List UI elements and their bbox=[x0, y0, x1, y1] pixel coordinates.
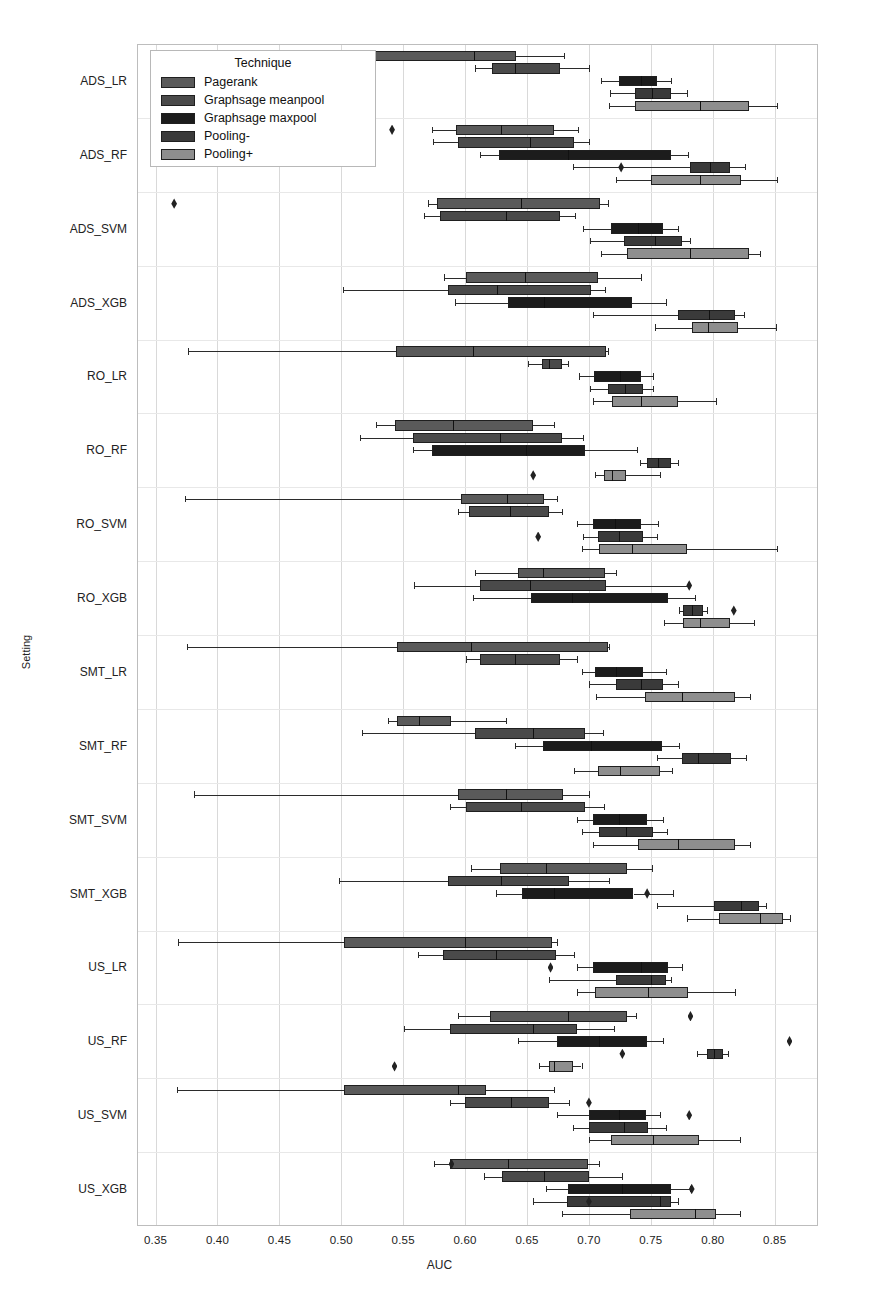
legend: Technique PagerankGraphsage meanpoolGrap… bbox=[150, 50, 376, 167]
x-tick-label-6: 0.65 bbox=[515, 1234, 538, 1246]
legend-swatch-icon bbox=[161, 95, 195, 106]
legend-label: Graphsage meanpool bbox=[204, 93, 324, 107]
x-tick-label-1: 0.40 bbox=[206, 1234, 229, 1246]
boxplot-figure: 0.350.400.450.500.550.600.650.700.750.80… bbox=[0, 0, 879, 1304]
y-tick-label-us_lr: US_LR bbox=[0, 960, 127, 974]
whisker-low bbox=[562, 1214, 630, 1215]
x-tick-label-2: 0.45 bbox=[268, 1234, 291, 1246]
x-tick-label-9: 0.80 bbox=[701, 1234, 724, 1246]
y-tick-label-ro_rf: RO_RF bbox=[0, 443, 127, 457]
x-axis-label: AUC bbox=[0, 1258, 879, 1272]
whisker-high bbox=[716, 1214, 740, 1215]
legend-label: Graphsage maxpool bbox=[204, 111, 317, 125]
legend-swatch-icon bbox=[161, 77, 195, 88]
x-tick-label-7: 0.70 bbox=[577, 1234, 600, 1246]
x-tick-label-10: 0.85 bbox=[763, 1234, 786, 1246]
y-tick-label-smt_svm: SMT_SVM bbox=[0, 813, 127, 827]
y-tick-label-ro_xgb: RO_XGB bbox=[0, 591, 127, 605]
y-tick-label-ads_rf: ADS_RF bbox=[0, 148, 127, 162]
y-tick-label-ro_lr: RO_LR bbox=[0, 369, 127, 383]
legend-entries: PagerankGraphsage meanpoolGraphsage maxp… bbox=[151, 73, 375, 163]
cap-high bbox=[740, 1211, 741, 1217]
legend-label: Pooling+ bbox=[204, 147, 253, 161]
axis-spine-bottom bbox=[137, 1225, 818, 1226]
y-axis-label: Setting bbox=[20, 635, 32, 669]
y-tick-label-smt_rf: SMT_RF bbox=[0, 739, 127, 753]
x-tick-label-8: 0.75 bbox=[639, 1234, 662, 1246]
plot-area bbox=[137, 44, 818, 1226]
legend-swatch-icon bbox=[161, 149, 195, 160]
y-tick-label-us_svm: US_SVM bbox=[0, 1108, 127, 1122]
box-us_xgb-4 bbox=[137, 44, 818, 1226]
legend-label: Pooling- bbox=[204, 129, 250, 143]
legend-entry-1: Graphsage meanpool bbox=[151, 91, 375, 109]
box-rect bbox=[630, 1209, 717, 1220]
y-tick-label-smt_xgb: SMT_XGB bbox=[0, 887, 127, 901]
legend-entry-0: Pagerank bbox=[151, 73, 375, 91]
x-tick-label-3: 0.50 bbox=[330, 1234, 353, 1246]
y-tick-label-ads_lr: ADS_LR bbox=[0, 74, 127, 88]
legend-title: Technique bbox=[151, 56, 375, 70]
legend-swatch-icon bbox=[161, 113, 195, 124]
median-line bbox=[695, 1209, 696, 1220]
legend-entry-4: Pooling+ bbox=[151, 145, 375, 163]
x-tick-label-0: 0.35 bbox=[144, 1234, 167, 1246]
y-tick-label-ro_svm: RO_SVM bbox=[0, 517, 127, 531]
x-tick-label-5: 0.60 bbox=[454, 1234, 477, 1246]
y-tick-label-ads_svm: ADS_SVM bbox=[0, 222, 127, 236]
legend-swatch-icon bbox=[161, 131, 195, 142]
legend-label: Pagerank bbox=[204, 75, 258, 89]
legend-entry-3: Pooling- bbox=[151, 127, 375, 145]
axis-spine-left bbox=[137, 44, 138, 1226]
y-tick-label-us_xgb: US_XGB bbox=[0, 1182, 127, 1196]
y-tick-label-us_rf: US_RF bbox=[0, 1034, 127, 1048]
legend-entry-2: Graphsage maxpool bbox=[151, 109, 375, 127]
axis-spine-top bbox=[137, 44, 818, 45]
axis-spine-right bbox=[817, 44, 818, 1226]
y-tick-label-ads_xgb: ADS_XGB bbox=[0, 296, 127, 310]
cap-low bbox=[562, 1211, 563, 1217]
x-tick-label-4: 0.55 bbox=[392, 1234, 415, 1246]
